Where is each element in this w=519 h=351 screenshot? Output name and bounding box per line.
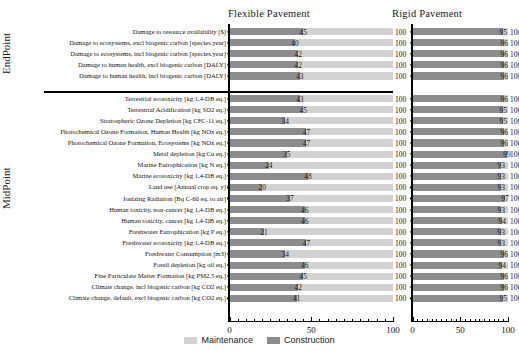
- bar-value-construction: 34: [281, 116, 288, 125]
- bar-segment-construction: [413, 106, 504, 113]
- bar-value-construction: 96: [500, 249, 507, 258]
- bar-row: 45100: [230, 106, 393, 113]
- bar-value-total: 100: [510, 227, 519, 236]
- category-label: Photochemical Ozone Formation, Ecosystem…: [68, 140, 226, 147]
- row-tick: [410, 109, 413, 110]
- bar-row: 46100: [230, 206, 393, 213]
- row-tick: [227, 31, 230, 32]
- x-axis-tick-label: 0: [227, 325, 232, 335]
- x-axis-tick: [489, 319, 490, 322]
- category-axis-labels: Damage to resource availability [$]Damag…: [14, 24, 228, 314]
- bar-row: 45100: [230, 28, 393, 35]
- bar-value-construction: 96: [500, 94, 507, 103]
- stacked-bar: 95100: [413, 117, 508, 124]
- x-axis-tick: [432, 319, 433, 322]
- stacked-bar: 96100: [413, 273, 508, 280]
- bar-segment-construction: [413, 151, 507, 158]
- row-tick: [227, 253, 230, 254]
- stacked-bar: 93100: [413, 228, 508, 235]
- stacked-bar: 40100: [230, 39, 393, 46]
- bar-value-construction: 96: [500, 138, 507, 147]
- bar-value-total: 100: [510, 150, 519, 159]
- x-axis-tick: [311, 317, 312, 322]
- row-tick: [227, 131, 230, 132]
- bar-value-total: 100: [395, 294, 406, 303]
- stacked-bar: 93100: [413, 239, 508, 246]
- bar-value-construction: 24: [265, 161, 272, 170]
- bar-row: 97100: [413, 195, 508, 202]
- row-tick: [227, 187, 230, 188]
- row-tick: [410, 154, 413, 155]
- bar-value-total: 100: [510, 161, 519, 170]
- row-tick: [227, 298, 230, 299]
- bar-segment-construction: [230, 128, 307, 135]
- bar-row: 48100: [230, 173, 393, 180]
- bar-value-total: 100: [395, 194, 406, 203]
- stacked-bar: 37100: [230, 195, 393, 202]
- x-axis-tick: [427, 319, 428, 322]
- bar-row: 42100: [230, 61, 393, 68]
- bar-value-total: 100: [510, 60, 519, 69]
- bar-value-total: 100: [395, 249, 406, 258]
- bar-row: 96100: [413, 284, 508, 291]
- bar-value-construction: 95: [500, 294, 507, 303]
- stacked-bar: 96100: [413, 284, 508, 291]
- x-axis-tick-label: 0: [410, 325, 415, 335]
- x-axis-tick: [441, 319, 442, 322]
- stacked-bar-chart: Flexible Pavement Rigid Pavement EndPoin…: [0, 0, 519, 351]
- legend-label-maintenance: Maintenance: [201, 335, 253, 345]
- bar-value-total: 100: [510, 94, 519, 103]
- bar-row: 41100: [230, 295, 393, 302]
- bar-value-total: 100: [395, 60, 406, 69]
- row-tick: [227, 220, 230, 221]
- bar-row: 46100: [230, 217, 393, 224]
- bar-value-total: 100: [395, 205, 406, 214]
- panel-rigid-pavement: 9510096100961009610096100961009510095100…: [411, 24, 508, 322]
- stacked-bar: 47100: [230, 239, 393, 246]
- bar-segment-construction: [230, 162, 269, 169]
- bar-value-construction: 96: [500, 38, 507, 47]
- x-axis-tick: [475, 319, 476, 322]
- stacked-bar: 95100: [413, 28, 508, 35]
- bar-segment-construction: [413, 217, 503, 224]
- bar-row: 96100: [413, 128, 508, 135]
- bar-value-construction: 20: [259, 183, 266, 192]
- row-tick: [227, 198, 230, 199]
- legend-swatch-maintenance: [184, 337, 197, 344]
- bar-row: 96100: [413, 273, 508, 280]
- bar-value-total: 100: [395, 38, 406, 47]
- category-label: Freshwater ecotoxicity [kg 1,4-DB eq.]: [122, 240, 226, 247]
- bar-value-construction: 42: [295, 60, 302, 69]
- row-tick: [410, 31, 413, 32]
- bar-value-construction: 43: [296, 94, 303, 103]
- bar-value-construction: 42: [295, 283, 302, 292]
- legend-label-construction: Construction: [284, 335, 335, 345]
- stacked-bar: 48100: [230, 173, 393, 180]
- x-axis-tick: [451, 319, 452, 322]
- stacked-bar: 45100: [230, 273, 393, 280]
- x-axis-tick: [484, 319, 485, 322]
- category-label: Ionizing Radiation [Bq C-60 eq. to air]: [123, 195, 226, 202]
- bar-row: 96100: [413, 50, 508, 57]
- stacked-bar: 45100: [230, 28, 393, 35]
- category-label: Terrestrial Acidification [kg SO2 eq.]: [127, 106, 226, 113]
- bar-segment-construction: [230, 262, 305, 269]
- bar-row: 96100: [413, 250, 508, 257]
- bar-row: 46100: [230, 262, 393, 269]
- bar-value-construction: 96: [500, 283, 507, 292]
- bar-row: 95100: [413, 106, 508, 113]
- bar-value-construction: 42: [295, 49, 302, 58]
- bar-segment-construction: [413, 117, 504, 124]
- row-tick: [227, 165, 230, 166]
- bar-row: 96100: [413, 139, 508, 146]
- bar-row: 47100: [230, 139, 393, 146]
- stacked-bar: 96100: [413, 61, 508, 68]
- x-axis-tick: [503, 319, 504, 322]
- bar-row: 43100: [230, 72, 393, 79]
- bar-value-total: 100: [510, 216, 519, 225]
- row-tick: [227, 109, 230, 110]
- bar-value-construction: 95: [500, 27, 507, 36]
- x-axis-tick: [246, 319, 247, 322]
- x-axis-tick-label: 100: [501, 325, 515, 335]
- stacked-bar: 97100: [413, 195, 508, 202]
